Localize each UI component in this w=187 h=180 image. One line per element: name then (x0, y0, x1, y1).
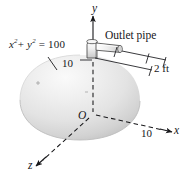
equation-plus: + (18, 38, 24, 50)
outlet-pipe (87, 40, 122, 59)
equation-y-exponent: 2 (32, 37, 36, 44)
equation-equals-value: = 100 (39, 38, 65, 50)
figure-canvas: x2+ y2 = 100 Outlet pipe 2 ft 10 10 O x … (0, 0, 187, 180)
surface-equation-label: x2+ y2 = 100 (9, 38, 65, 50)
axis-y-label: y (92, 3, 97, 15)
origin-label: O (78, 110, 86, 122)
tank-dome (20, 55, 140, 140)
diagram-svg (0, 0, 187, 180)
pipe-length-label: 2 ft (154, 63, 169, 74)
outlet-pipe-label: Outlet pipe (105, 30, 156, 42)
axis-x-label: x (174, 125, 179, 137)
tank-height-label: 10 (62, 58, 73, 69)
tank-radius-label: 10 (141, 128, 152, 139)
axis-z-label: z (28, 160, 32, 172)
